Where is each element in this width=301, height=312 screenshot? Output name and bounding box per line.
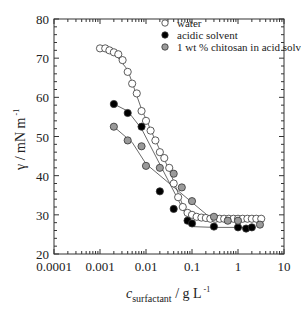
y-tick-label: 50 [36,130,49,145]
y-tick-label: 40 [36,169,49,184]
x-tick-label: 0.01 [135,259,158,274]
legend-marker [162,32,168,38]
legend-marker [162,20,168,26]
data-point [138,107,145,114]
data-point [210,223,217,230]
data-point [170,205,177,212]
y-tick-label: 70 [36,51,49,66]
data-point [156,164,163,171]
x-tick-label: 10 [278,259,291,274]
data-point [129,80,136,87]
data-point [147,127,154,134]
fit-line [114,127,260,222]
data-point [138,123,145,130]
legend-marker [162,44,168,50]
legend-label: 1 wt % chitosan in acid solvent [177,41,301,53]
x-tick-label: 0.001 [85,259,114,274]
data-point [124,68,131,75]
chart: 0.00010.0010.010.111020304050607080water… [0,0,301,312]
data-point [234,224,241,231]
data-point [188,220,195,227]
series-acidic-solvent [110,100,255,232]
data-point [110,123,117,130]
data-point [119,57,126,64]
y-tick-label: 80 [36,12,49,27]
data-point [224,217,231,224]
x-axis-label: csurfactant / g L -1 [126,285,210,304]
x-tick-label: 1 [235,259,242,274]
data-point [156,188,163,195]
x-tick-label: 0.1 [184,259,200,274]
data-point [234,217,241,224]
y-tick-label: 20 [36,247,49,262]
y-axis-label: γ / mN m -1 [12,109,28,171]
data-point [170,170,177,177]
legend: wateracidic solvent1 wt % chitosan in ac… [162,17,301,53]
data-point [179,203,186,210]
data-point [188,198,195,205]
data-point [210,213,217,220]
data-point [124,137,131,144]
data-point [138,143,145,150]
x-axis: 0.00010.0010.010.1110 [36,19,290,274]
data-point [248,224,255,231]
data-point [110,100,117,107]
legend-label: water [177,17,202,29]
data-point [170,180,177,187]
data-point [152,137,159,144]
data-point [161,154,168,161]
data-point [124,109,131,116]
y-tick-label: 30 [36,208,49,223]
data-point [133,90,140,97]
data-point [175,194,182,201]
y-tick-label: 60 [36,90,49,105]
legend-label: acidic solvent [177,29,238,41]
data-point [178,184,185,191]
data-point [256,221,263,228]
data-point [142,162,149,169]
